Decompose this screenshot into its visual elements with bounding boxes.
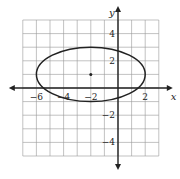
- y-arrow-down-icon: [115, 164, 121, 170]
- ellipse-graph: −6−4−2242−2−4 x y: [0, 0, 180, 179]
- y-tick-label: −2: [102, 110, 115, 120]
- y-tick-label: 2: [109, 56, 115, 66]
- x-tick-label: 2: [142, 92, 148, 102]
- y-tick-label: −4: [102, 137, 116, 147]
- center-point: [89, 73, 92, 76]
- x-tick-label: −2: [84, 92, 97, 102]
- x-axis-label: x: [171, 91, 177, 102]
- y-tick-label: 4: [109, 29, 115, 39]
- y-axis-label: y: [108, 7, 115, 18]
- x-tick-label: −6: [30, 92, 44, 102]
- x-arrow-left-icon: [9, 85, 15, 91]
- y-arrow-up-icon: [115, 6, 121, 12]
